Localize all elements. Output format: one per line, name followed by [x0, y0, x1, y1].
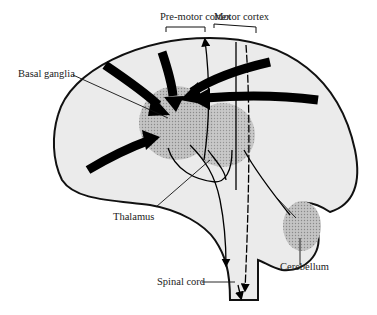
label-cerebellum: Cerebellum	[280, 261, 329, 272]
motor-bracket	[214, 24, 256, 33]
brain-motor-pathways-diagram: Pre-motor cortex Motor cortex Basal gang…	[0, 0, 377, 315]
premotor-bracket	[166, 27, 205, 32]
label-motor-cortex: Motor cortex	[214, 11, 270, 22]
label-spinal-cord: Spinal cord	[157, 276, 206, 287]
label-basal-ganglia: Basal ganglia	[18, 68, 75, 79]
cerebellum-nucleus	[283, 201, 321, 251]
label-thalamus: Thalamus	[113, 211, 154, 222]
